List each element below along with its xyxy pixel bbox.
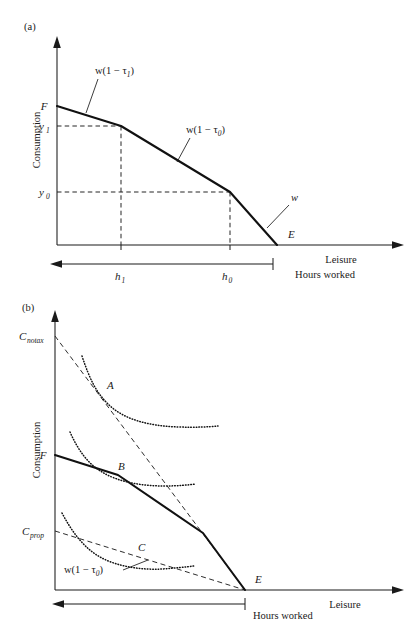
panel-b-y-axis [51, 310, 59, 590]
panel-a-hours-axis: Hours worked [50, 245, 356, 280]
label-E-b: E [254, 573, 262, 585]
label-c-notax-b: C notax [19, 330, 44, 345]
y-axis-arrowhead-b [51, 310, 59, 322]
panel-a-hours-axis-title: Hours worked [295, 269, 356, 280]
label-c-notax-subscript: notax [27, 336, 44, 345]
label-y0-subscript: 0 [46, 192, 50, 201]
panel-a-y-axis [53, 36, 61, 245]
indifference-curve-C [62, 513, 194, 569]
svg-text:w(1 − τ0): w(1 − τ0) [64, 564, 103, 578]
panel-a-x-axis-title: Leisure [325, 254, 357, 265]
label-optimum-a: A [106, 379, 114, 391]
seg-a1-text: w(1 − τ [95, 65, 127, 77]
panel-b-hours-axis-title: Hours worked [253, 610, 314, 621]
hours-axis-arrowhead-b [52, 600, 64, 608]
label-c-prop-subscript: prop [29, 531, 44, 540]
x-axis-arrowhead-b [392, 586, 404, 594]
label-y0-base: y [38, 186, 44, 198]
label-y0-a: y 0 [38, 186, 50, 201]
seg-a2-text: w(1 − τ [186, 124, 218, 136]
panel-a: (a) Consumption Leisure F E y 1 [24, 21, 404, 285]
panel-a-label: (a) [24, 21, 36, 33]
label-h1-subscript: 1 [122, 276, 126, 285]
label-c-notax-base: C [19, 330, 27, 342]
x-axis-arrowhead-a [392, 241, 404, 249]
segment-label-proportional-b: w(1 − τ0) [64, 560, 148, 578]
label-h0-base: h [222, 270, 228, 282]
label-F-b: F [39, 449, 47, 461]
seg-a3-text: w [291, 192, 298, 203]
label-c-prop-b: C prop [22, 525, 44, 540]
budget-constraint-a [57, 106, 277, 245]
label-optimum-b: B [118, 460, 125, 472]
label-c-prop-base: C [22, 525, 30, 537]
panel-b-x-axis [55, 586, 404, 594]
label-h1-base: h [115, 270, 121, 282]
hours-axis-arrowhead-a [50, 260, 62, 268]
svg-text:w(1 − τ0): w(1 − τ0) [186, 124, 225, 138]
panel-b: (b) Consumption Leisure C notax [19, 302, 404, 621]
svg-text:w(1 − τ1): w(1 − τ1) [95, 65, 134, 79]
seg-a2-tail: ) [221, 124, 225, 136]
panel-b-x-axis-title: Leisure [329, 599, 361, 610]
label-E-a: E [287, 228, 295, 240]
segment-label-no-tax-a: w [267, 192, 298, 228]
panel-b-hours-axis: Hours worked [52, 598, 314, 621]
proportional-tax-budget-line-b [55, 531, 245, 590]
label-y1-base: y [38, 120, 44, 132]
segment-label-low-tax-a: w(1 − τ0) [177, 124, 225, 162]
label-y1-subscript: 1 [46, 126, 50, 135]
indifference-curve-A [82, 356, 218, 427]
label-optimum-c: C [138, 541, 146, 553]
figure-root: (a) Consumption Leisure F E y 1 [0, 0, 416, 632]
seg-a1-tail: ) [130, 65, 134, 77]
seg-b1-text: w(1 − τ [64, 564, 96, 576]
label-h1-a: h 1 [115, 270, 125, 285]
segment-label-high-tax-a: w(1 − τ1) [86, 65, 134, 113]
y-axis-arrowhead-a [53, 36, 61, 48]
label-h0-a: h 0 [222, 270, 233, 285]
label-F-a: F [40, 100, 48, 112]
seg-b1-tail: ) [99, 564, 103, 576]
label-h0-subscript: 0 [229, 276, 233, 285]
figure-svg: (a) Consumption Leisure F E y 1 [0, 0, 416, 632]
panel-b-label: (b) [22, 302, 35, 314]
